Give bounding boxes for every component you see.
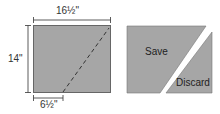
- height-label: 14": [8, 54, 23, 64]
- width-label: 16½": [56, 6, 79, 16]
- offset-label: 6½": [40, 100, 57, 110]
- fabric-rectangle: [34, 26, 111, 93]
- save-label: Save: [145, 47, 168, 57]
- diagram-canvas: [0, 0, 220, 114]
- discard-label: Discard: [176, 78, 210, 88]
